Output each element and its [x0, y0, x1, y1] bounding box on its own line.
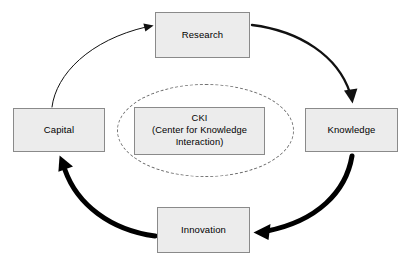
- node-capital[interactable]: Capital: [13, 108, 105, 152]
- cki-acronym: CKI: [192, 113, 208, 125]
- node-innovation-label: Innovation: [181, 224, 226, 235]
- node-innovation[interactable]: Innovation: [157, 207, 250, 253]
- node-knowledge-label: Knowledge: [328, 124, 376, 135]
- arrow-knowledge-to-innovation: [254, 156, 353, 240]
- node-research[interactable]: Research: [155, 12, 250, 58]
- arrow-innovation-to-capital: [58, 155, 155, 236]
- node-knowledge[interactable]: Knowledge: [305, 108, 398, 152]
- cki-expansion-line-2: Interaction): [176, 137, 224, 149]
- node-capital-label: Capital: [44, 124, 74, 135]
- arrow-research-to-knowledge: [252, 25, 357, 103]
- node-cki[interactable]: CKI (Center for Knowledge Interaction): [134, 107, 265, 155]
- cki-expansion-line-1: (Center for Knowledge: [152, 125, 247, 137]
- node-research-label: Research: [182, 29, 223, 40]
- cycle-diagram-canvas: Research Knowledge Innovation Capital CK…: [0, 0, 410, 269]
- arrow-capital-to-research: [52, 24, 154, 107]
